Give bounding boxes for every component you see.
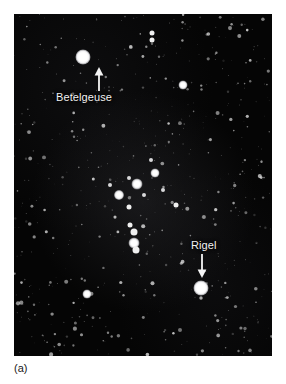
star-point [150,31,155,36]
star-point [127,205,132,210]
star-point [194,281,209,296]
star-point [179,81,188,90]
star-point [114,190,124,200]
star-point [174,203,179,208]
star-point [151,169,160,178]
betelgeuse-label: Betelgeuse [56,91,112,104]
star-point [161,188,165,192]
star-point [127,176,131,180]
rigel-label: Rigel [191,239,217,252]
star-point [133,247,140,254]
star-point [131,229,138,236]
figure-caption: (a) [14,361,27,375]
star-point [150,38,155,43]
star-field-grain [14,14,272,356]
star-field [14,14,272,356]
rigel-arrow [193,253,211,279]
star-point [129,238,140,249]
star-point [132,179,143,190]
orion-sky-photograph: Betelgeuse Rigel [14,14,272,356]
star-point [83,290,92,299]
star-point [142,193,146,197]
betelgeuse-arrow [90,66,108,92]
figure-page: Betelgeuse Rigel (a) [0,0,286,384]
star-point [108,183,112,187]
star-point [76,50,91,65]
star-point [128,223,133,228]
star-point [149,158,153,162]
